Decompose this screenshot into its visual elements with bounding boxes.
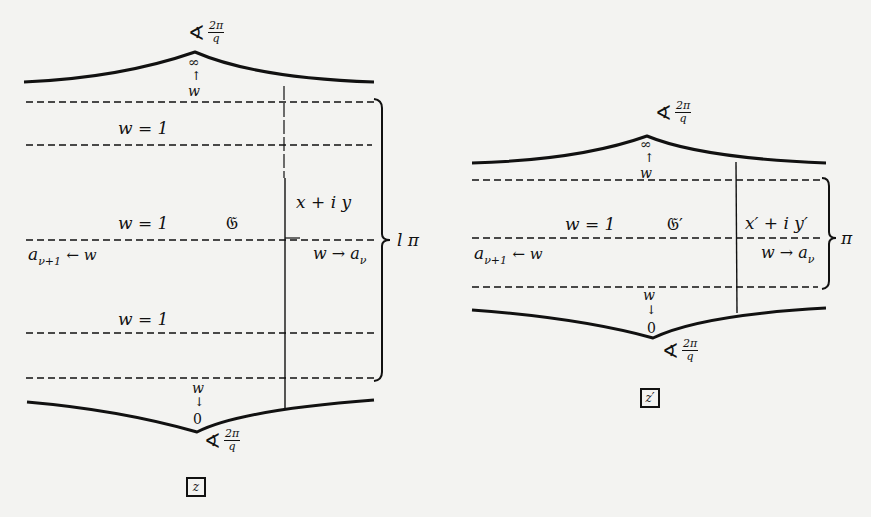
left-strip-label-3: w = 1: [118, 311, 168, 328]
right-top-w: w: [640, 166, 652, 180]
right-vertical-cut: [736, 162, 737, 313]
left-strip-label-2: w = 1: [118, 215, 168, 232]
right-limit-right: w → aν: [761, 245, 815, 265]
left-limit-left: aν+1 ← w: [28, 246, 97, 267]
left-zero-point: 0: [193, 412, 202, 426]
figure-drawings: [0, 0, 871, 517]
left-infinity-point: ∞: [188, 55, 200, 69]
right-brace-label: π: [841, 230, 852, 247]
left-brace-label: l π: [397, 232, 419, 249]
right-zero-point: 0: [647, 321, 656, 335]
left-plane-label: z: [186, 477, 206, 497]
left-strip-label-1: w = 1: [118, 120, 168, 137]
up-arrow-icon: ↑: [644, 152, 654, 164]
down-arrow-icon: ↓: [194, 396, 204, 408]
right-bottom-angle: ∢ 2πq: [662, 338, 698, 363]
left-bottom-angle: ∢ 2πq: [204, 428, 240, 453]
left-top-w: w: [188, 84, 200, 98]
right-strip-label: w = 1: [565, 216, 615, 233]
left-point-label: x + i y: [296, 194, 351, 211]
right-domain-label: 𝔊′: [667, 216, 683, 233]
left-brace: [374, 99, 390, 381]
up-arrow-icon: ↑: [191, 70, 201, 82]
left-bottom-w: w: [192, 381, 204, 395]
right-infinity-point: ∞: [640, 137, 652, 151]
angle-icon: ∢: [655, 101, 672, 125]
angle-icon: ∢: [662, 339, 679, 363]
right-point-label: x′ + i y′: [745, 215, 808, 232]
right-brace: [822, 178, 836, 289]
left-top-angle: ∢ 2πq: [188, 20, 224, 45]
down-arrow-icon: ↓: [646, 304, 656, 316]
angle-icon: ∢: [188, 21, 205, 45]
angle-icon: ∢: [204, 429, 221, 453]
right-bottom-w: w: [643, 288, 655, 302]
right-limit-left: aν+1 ← w: [474, 245, 543, 266]
right-top-angle: ∢ 2πq: [655, 100, 691, 125]
left-limit-right: w → aν: [313, 246, 367, 266]
right-plane-label: z′: [640, 388, 660, 408]
left-domain-label: 𝔊: [226, 215, 238, 232]
